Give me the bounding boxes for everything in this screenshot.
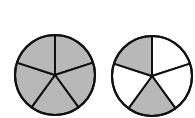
fraction-diagram (0, 0, 195, 118)
left-circle (15, 35, 95, 115)
right-circle (112, 36, 192, 116)
